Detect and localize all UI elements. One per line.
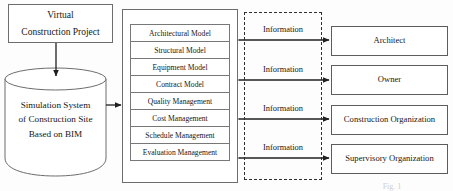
datastore-line-3: Based on BIM	[5, 127, 106, 141]
module-item-equipment-model: Equipment Model	[130, 58, 230, 76]
information-label-2: Information	[244, 65, 322, 74]
simulation-system-datastore: Simulation System of Construction Site B…	[5, 68, 106, 176]
module-item-schedule-management: Schedule Management	[130, 126, 230, 144]
stakeholder-architect: Architect	[331, 26, 448, 56]
module-item-quality-management: Quality Management	[130, 92, 230, 110]
information-label-4: Information	[244, 143, 322, 152]
information-label-3: Information	[244, 104, 322, 113]
module-item-evaluation-management: Evaluation Management	[130, 143, 230, 161]
module-item-structural-model: Structural Model	[130, 41, 230, 59]
virtual-construction-project-box: Virtual Construction Project	[8, 4, 113, 43]
stakeholder-construction-organization: Construction Organization	[331, 105, 448, 135]
bim-information-flow-diagram: Virtual Construction Project Simulation …	[0, 0, 453, 191]
module-item-cost-management: Cost Management	[130, 109, 230, 127]
module-item-architectural-model: Architectural Model	[130, 24, 230, 42]
stakeholder-owner: Owner	[331, 65, 448, 95]
datastore-label: Simulation System of Construction Site B…	[5, 98, 106, 141]
stakeholder-supervisory-organization: Supervisory Organization	[331, 144, 448, 174]
caption-remnant: Fig. 1	[333, 182, 451, 191]
module-item-contract-model: Contract Model	[130, 75, 230, 93]
datastore-line-1: Simulation System	[5, 98, 106, 112]
information-exchange-region	[244, 12, 322, 180]
vcp-line-1: Virtual	[47, 9, 73, 22]
module-panel: Architectural Model Structural Model Equ…	[122, 9, 238, 183]
vcp-line-2: Construction Project	[21, 26, 99, 39]
datastore-line-2: of Construction Site	[5, 112, 106, 126]
information-label-1: Information	[244, 25, 322, 34]
